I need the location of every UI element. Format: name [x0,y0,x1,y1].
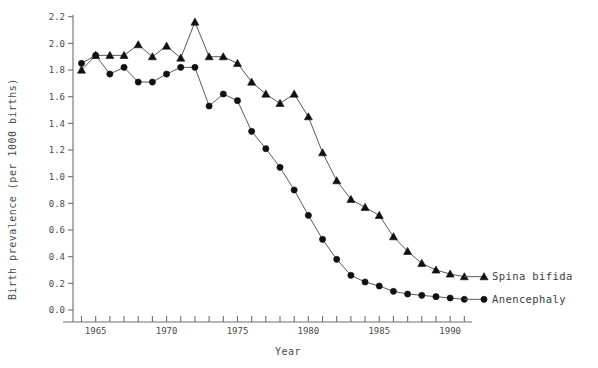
data-point-marker [432,266,440,273]
data-point-marker [263,146,269,152]
data-point-marker [234,98,240,104]
data-point-marker [376,283,382,289]
data-point-marker [305,212,311,218]
y-tick-label: 0.4 [49,252,65,262]
data-point-marker [276,99,284,106]
data-point-marker [362,279,368,285]
y-tick-label: 1.0 [49,172,65,182]
x-tick-label: 1985 [368,326,390,336]
y-tick-label: 0.6 [49,225,65,235]
data-point-marker [93,52,99,58]
data-point-marker [319,236,325,242]
x-axis: 196519701975198019851990 [63,316,472,336]
y-tick-label: 2.0 [49,39,65,49]
y-tick-label: 1.4 [49,119,65,129]
x-tick-label: 1990 [439,326,461,336]
chart-figure: 0.00.20.40.60.81.01.21.41.61.82.02.2 196… [0,0,598,368]
x-tick-label: 1965 [85,326,107,336]
data-point-marker [389,233,397,240]
x-axis-title: Year [275,346,301,357]
data-point-marker [206,103,212,109]
data-point-marker [249,128,255,134]
data-point-marker [163,42,171,49]
data-point-marker [121,64,127,70]
data-point-marker [361,203,369,210]
data-point-marker [319,149,327,156]
series-layer [78,18,482,302]
x-tick-label: 1980 [298,326,320,336]
data-point-marker [134,41,142,48]
legend-label: Spina bifida [492,270,573,282]
y-tick-label: 1.6 [49,92,65,102]
data-point-marker [304,113,312,120]
legend-label: Anencephaly [492,293,566,305]
y-tick-label: 0.8 [49,199,65,209]
data-point-marker [135,79,141,85]
data-point-marker [291,187,297,193]
chart-canvas: 0.00.20.40.60.81.01.21.41.61.82.02.2 196… [0,0,598,368]
legend-marker-circle [481,296,487,302]
data-point-marker [375,211,383,218]
y-axis-title: Birth prevalence (per 1000 births) [7,78,18,300]
x-tick-label: 1970 [156,326,178,336]
series-line-spina-bifida [82,22,465,277]
data-point-marker [333,177,341,184]
y-tick-label: 0.2 [49,279,65,289]
data-point-marker [178,64,184,70]
x-tick-label: 1975 [227,326,249,336]
data-point-marker [433,294,439,300]
data-point-marker [107,71,113,77]
legend: Spina bifidaAnencephaly [480,270,573,305]
series-line-anencephaly [82,55,465,299]
y-tick-label: 2.2 [49,12,65,22]
data-point-marker [419,292,425,298]
data-point-marker [233,59,241,66]
data-point-marker [149,79,155,85]
y-tick-label: 1.2 [49,145,65,155]
data-point-marker [390,288,396,294]
data-point-marker [348,272,354,278]
data-point-marker [290,90,298,97]
data-point-marker [191,18,199,25]
y-axis: 0.00.20.40.60.81.01.21.41.61.82.02.2 [49,12,73,322]
data-point-marker [78,60,84,66]
data-point-marker [334,256,340,262]
data-point-marker [277,164,283,170]
data-point-marker [163,71,169,77]
data-point-marker [447,295,453,301]
y-tick-label: 1.8 [49,65,65,75]
data-point-marker [192,64,198,70]
y-tick-label: 0.0 [49,305,65,315]
data-point-marker [220,91,226,97]
data-point-marker [405,291,411,297]
